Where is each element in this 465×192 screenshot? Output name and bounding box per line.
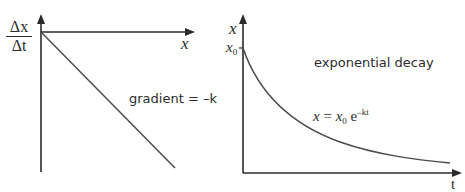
eq-sign: = (320, 108, 336, 124)
arrow-up-icon (37, 14, 45, 24)
arrow-up-icon (239, 14, 247, 24)
x0-base: x (226, 39, 233, 55)
left-y-axis-label: Δx Δt (4, 19, 34, 54)
eq-lhs: x (313, 108, 320, 124)
left-x-axis-label: x (181, 35, 189, 52)
eq-e: e (347, 108, 357, 124)
right-x-axis-label: t (451, 177, 455, 192)
x0-tick-label: x0 (226, 40, 237, 57)
eq-exponent: –kt (357, 107, 369, 117)
gradient-annotation: gradient = –k (129, 92, 217, 105)
y-numerator: Δx (4, 19, 34, 35)
plot-title: exponential decay (314, 56, 434, 69)
decay-equation: x = x0 e–kt (313, 108, 369, 126)
x0-subscript: 0 (233, 47, 238, 57)
right-y-axis-label: x (229, 20, 237, 37)
figure: Δx Δt x gradient = –k x x0 exponential d… (0, 0, 465, 192)
right-plot (239, 14, 462, 177)
y-denominator: Δt (4, 38, 34, 54)
